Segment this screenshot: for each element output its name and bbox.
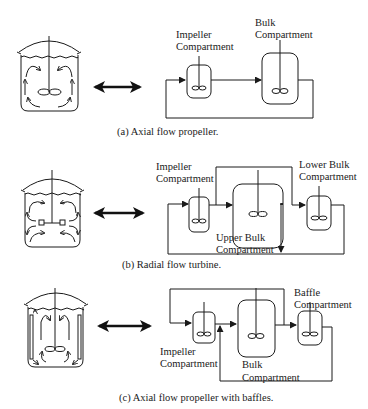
panel-a: Impeller Compartment Bulk Compartment (a… <box>17 17 313 138</box>
panel-c: Baffle Compartment Impeller Compartment … <box>24 287 352 404</box>
impeller-compartment-label-line1: Impeller <box>156 161 192 172</box>
bulk-compartment-label-line2: Compartment <box>242 372 300 383</box>
compartment-network-c: Baffle Compartment Impeller Compartment … <box>160 287 352 383</box>
radial-flow-turbine-vessel <box>21 170 84 247</box>
bulk-compartment-label-line2: Compartment <box>255 29 313 40</box>
compartment-model-figure: Impeller Compartment Bulk Compartment (a… <box>0 0 368 409</box>
caption-b: (b) Radial flow turbine. <box>122 259 221 271</box>
impeller-compartment-label-line1: Impeller <box>160 346 196 357</box>
compartment-network-b: Impeller Compartment Upper Bulk Compartm… <box>156 159 357 255</box>
baffle-compartment-label-line1: Baffle <box>294 287 320 298</box>
lower-bulk-compartment-label-line1: Lower Bulk <box>299 159 350 170</box>
bulk-compartment-label-line1: Bulk <box>255 17 276 28</box>
caption-c: (c) Axial flow propeller with baffles. <box>119 392 273 404</box>
upper-bulk-compartment-label-line1: Upper Bulk <box>216 232 266 243</box>
lower-bulk-compartment-label-line2: Compartment <box>299 171 357 182</box>
baffled-axial-propeller-vessel <box>24 288 88 367</box>
compartment-network-a: Impeller Compartment Bulk Compartment <box>166 17 313 118</box>
impeller-compartment-label-line1: Impeller <box>176 29 212 40</box>
caption-a: (a) Axial flow propeller. <box>117 126 218 138</box>
bulk-compartment-label-line1: Bulk <box>242 359 263 370</box>
impeller-compartment-label-line2: Compartment <box>160 358 218 369</box>
impeller-compartment-label-line2: Compartment <box>176 41 234 52</box>
baffle-compartment-label-line2: Compartment <box>294 299 352 310</box>
upper-bulk-compartment-label-line2: Compartment <box>216 244 274 255</box>
impeller-compartment-label-line2: Compartment <box>156 173 214 184</box>
axial-flow-propeller-vessel <box>17 36 81 111</box>
panel-b: Impeller Compartment Upper Bulk Compartm… <box>21 159 357 271</box>
